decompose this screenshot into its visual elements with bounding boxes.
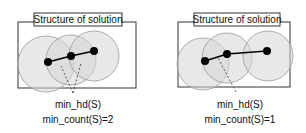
min-hd-label: min_hd(S) [217,99,263,110]
panel-right: Structure of solution min_hd(S) min_coun… [177,13,293,125]
diagram-canvas: Structure of solution min_hd(S) min_coun… [0,0,306,133]
panel-title: Structure of solution [193,14,282,25]
node-dot [223,50,231,58]
node-dot [201,57,209,65]
min-count-label: min_count(S)=2 [43,114,114,125]
min-hd-label: min_hd(S) [55,99,101,110]
node-dot [67,52,75,60]
coverage-circle [243,31,293,81]
coverage-circle [69,31,119,81]
node-dot [263,47,271,55]
panel-title: Structure of solution [34,14,123,25]
node-dot [90,47,98,55]
node-dot [44,58,52,66]
min-count-label: min_count(S)=1 [205,114,276,125]
panel-left: Structure of solution min_hd(S) min_coun… [18,13,136,125]
